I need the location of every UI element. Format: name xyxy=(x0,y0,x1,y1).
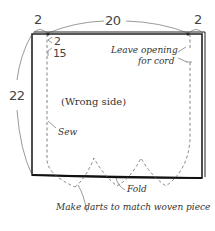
dim-height: 22 xyxy=(9,89,25,102)
label-wrong-side: (Wrong side) xyxy=(61,97,126,107)
stitch-darts xyxy=(75,62,190,187)
leader-opening-bottom xyxy=(178,58,187,62)
pattern-drawing xyxy=(0,0,215,231)
sewing-diagram: 2 20 2 2 15 22 Leave opening for cord (W… xyxy=(0,0,215,231)
dim-left-margin: 2 xyxy=(34,13,42,26)
leader-opening-top xyxy=(178,47,186,52)
label-make-darts: Make darts to match woven piece xyxy=(56,203,210,212)
dim-width: 20 xyxy=(105,14,121,27)
leader-fold xyxy=(116,178,125,190)
dim-arc-width-right xyxy=(126,21,188,33)
dim-right-margin: 2 xyxy=(194,13,202,26)
dim-top-seam: 2 xyxy=(54,36,61,47)
label-fold: Fold xyxy=(127,185,147,194)
label-sew: Sew xyxy=(58,128,77,137)
dim-opening: 15 xyxy=(53,48,66,59)
label-leave-opening: Leave opening xyxy=(111,46,178,55)
leader-opening xyxy=(48,48,52,56)
dim-arc-height-bottom xyxy=(17,110,32,175)
label-for-cord: for cord xyxy=(138,57,174,66)
dim-arc-height-top xyxy=(17,34,32,80)
dim-arc-width-left xyxy=(48,21,104,33)
leader-top-seam xyxy=(48,37,52,43)
leader-sew xyxy=(48,121,56,128)
